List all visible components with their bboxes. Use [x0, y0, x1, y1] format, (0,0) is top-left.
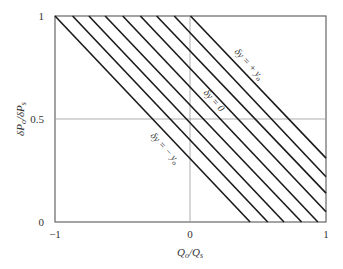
- y-tick-1: 1: [39, 10, 45, 22]
- y-axis-label: δPo/δPs: [14, 102, 28, 136]
- chart: 1 0.5 0 −1 0 1 Qo/Qs δPo/δPs δy = + yo δ…: [0, 0, 343, 269]
- y-tick-0: 0: [39, 216, 45, 228]
- y-tick-05: 0.5: [30, 113, 44, 125]
- x-axis-label: Qo/Qs: [177, 246, 203, 260]
- label-minus-y0: δy = − yo: [147, 130, 182, 167]
- data-line-6: [140, 16, 326, 212]
- x-tick-neg1: −1: [49, 228, 61, 240]
- label-zero: δy = 0: [202, 87, 227, 114]
- x-tick-1: 1: [323, 228, 329, 240]
- data-line-7: [157, 16, 326, 193]
- x-tick-0: 0: [187, 228, 193, 240]
- data-line-8: [174, 16, 326, 177]
